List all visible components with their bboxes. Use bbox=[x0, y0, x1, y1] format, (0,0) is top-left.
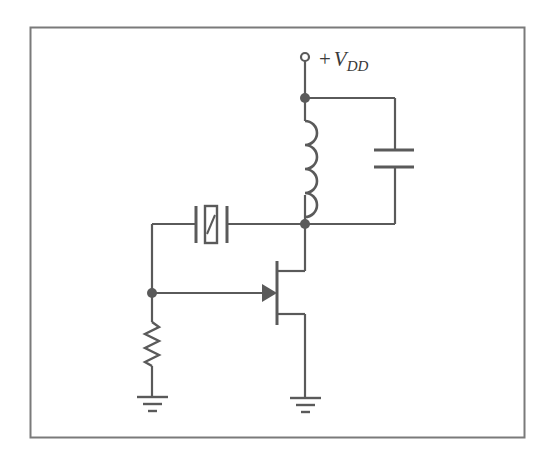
supply-plus: + bbox=[319, 47, 331, 71]
gate-arrow-icon bbox=[262, 284, 277, 302]
resistor-icon bbox=[145, 322, 159, 366]
vdd-junction-node bbox=[300, 93, 310, 103]
inductor-icon bbox=[305, 121, 317, 217]
capacitor-icon bbox=[374, 150, 414, 167]
supply-terminal-icon bbox=[301, 53, 309, 61]
supply-label: +VDD bbox=[319, 47, 368, 75]
crystal-icon bbox=[196, 206, 227, 243]
ground-icon bbox=[137, 397, 168, 411]
gate-junction-node bbox=[147, 288, 157, 298]
circuit-diagram bbox=[0, 0, 551, 458]
ground-icon bbox=[290, 398, 321, 412]
supply-symbol: V bbox=[334, 47, 347, 71]
diagram-frame bbox=[31, 28, 525, 438]
supply-subscript: DD bbox=[347, 58, 369, 74]
drain-junction-node bbox=[300, 219, 310, 229]
